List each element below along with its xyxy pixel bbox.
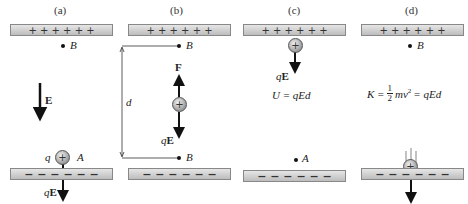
fraction-denominator: 2 [388, 94, 393, 103]
panel-b-distance-label: d [126, 96, 132, 108]
panel-a-positive-plate: + + + + + + [10, 24, 113, 36]
panel-b-point-a-dot [177, 156, 181, 160]
panel-c-positive-charge-icon: + [288, 38, 303, 53]
panel-a-charge-label: q [45, 151, 51, 163]
panel-a-point-a-label: A [77, 151, 84, 163]
panel-c-point-a-dot [294, 158, 298, 162]
panel-b-force-up-label: F [175, 61, 182, 73]
panel-a-point-b-label: B [70, 39, 77, 51]
panel-a-negative-plate: − − − − − − [10, 168, 113, 180]
panel-b-point-b-dot [177, 44, 181, 48]
panel-c-positive-plate: + + + + + + [243, 24, 346, 36]
mv-term: mv [395, 88, 408, 100]
panel-d-label: (d) [405, 4, 418, 16]
panel-c-point-a-label: A [302, 152, 309, 164]
panel-b-positive-charge-icon: + [172, 97, 187, 112]
panel-d-positive-plate: + + + + + + [361, 24, 464, 36]
panel-a-field-label: E [45, 94, 52, 106]
equation-left: K = [367, 88, 385, 100]
panel-b-point-a-label: B [186, 151, 193, 163]
panel-d-point-b-label: B [417, 39, 424, 51]
panel-d-point-b-dot [408, 44, 412, 48]
panel-b-negative-plate: − − − − − − [128, 168, 231, 180]
panel-b-force-down-label: qE [161, 134, 174, 146]
panel-c-force-label: qE [276, 70, 289, 82]
panel-b-point-b-label: B [186, 39, 193, 51]
panel-a-positive-charge-icon: + [55, 150, 70, 165]
panel-b-label: (b) [170, 4, 183, 16]
panel-c-label: (c) [288, 4, 300, 16]
panel-c-negative-plate: − − − − − − [243, 170, 346, 182]
panel-a-force-label: qE [44, 186, 57, 198]
fraction-one-half: 1 2 [387, 84, 394, 103]
panel-c-potential-energy-equation: U = qEd [272, 89, 311, 101]
panel-d-negative-plate: − − − − − − [361, 168, 464, 180]
equation-mid: mv2 [395, 87, 411, 100]
exponent: 2 [408, 87, 412, 95]
panel-b-positive-plate: + + + + + + [128, 24, 231, 36]
panel-d-kinetic-energy-equation: K = 1 2 mv2 = qEd [367, 84, 441, 103]
equation-right: = qEd [413, 88, 441, 100]
panel-a-point-b-dot [61, 44, 65, 48]
panel-a-label: (a) [54, 4, 66, 16]
